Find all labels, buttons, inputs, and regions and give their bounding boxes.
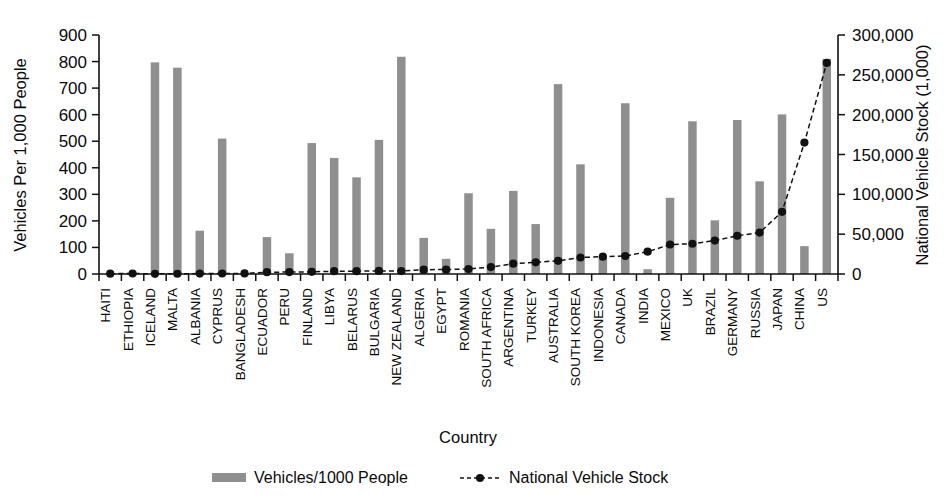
right-axis: 300,000250,000200,000150,000100,00050,00…: [838, 26, 931, 284]
bar: [464, 193, 473, 274]
line-marker: [733, 232, 741, 240]
bar: [554, 84, 563, 274]
line-marker: [599, 253, 607, 261]
category-label: RUSSIA: [748, 288, 763, 338]
line-marker: [442, 265, 450, 273]
category-label: BELARUS: [345, 288, 360, 351]
right-tick-label: 300,000: [852, 26, 913, 45]
line-marker: [756, 228, 764, 236]
left-tick-label: 700: [59, 79, 87, 98]
line-marker: [554, 257, 562, 265]
category-label: MALTA: [165, 288, 180, 331]
category-label: ROMANIA: [457, 288, 472, 351]
category-label: GERMANY: [725, 288, 740, 356]
bar: [173, 68, 182, 274]
right-tick-label: 100,000: [852, 185, 913, 204]
line-marker: [532, 258, 540, 266]
bar: [531, 224, 540, 274]
left-axis-title: Vehicles Per 1,000 People: [11, 58, 29, 252]
category-label: LIBYA: [322, 288, 337, 325]
bar: [196, 231, 205, 274]
right-tick-label: 250,000: [852, 66, 913, 85]
category-label: ALGERIA: [412, 288, 427, 347]
category-label: JAPAN: [770, 288, 785, 331]
right-tick-label: 50,000: [852, 225, 904, 244]
right-tick-label: 0: [852, 265, 861, 284]
bar: [778, 114, 787, 274]
right-tick-label: 200,000: [852, 106, 913, 125]
category-label: CHINA: [792, 288, 807, 330]
category-label: INDIA: [636, 288, 651, 324]
category-label: SOUTH AFRICA: [479, 288, 494, 388]
category-label: FINLAND: [300, 288, 315, 346]
category-label: UK: [680, 288, 695, 307]
bar: [800, 246, 809, 274]
bar: [823, 59, 832, 274]
bar: [711, 220, 720, 274]
bar-series-group: [106, 57, 831, 274]
combo-chart: 9008007006005004003002001000 Vehicles Pe…: [0, 0, 950, 500]
category-label: AUSTRALIA: [546, 288, 561, 363]
line-marker: [778, 208, 786, 216]
left-tick-label: 600: [59, 106, 87, 125]
right-axis-title: National Vehicle Stock (1,000): [913, 44, 931, 265]
category-label: CYPRUS: [210, 288, 225, 344]
line-marker: [263, 268, 271, 276]
category-label: MEXICO: [658, 288, 673, 341]
line-marker: [285, 268, 293, 276]
bar: [733, 120, 742, 274]
left-tick-label: 800: [59, 53, 87, 72]
bar: [688, 121, 697, 274]
line-marker: [823, 59, 831, 67]
bar: [621, 103, 630, 274]
right-axis-tick-labels: 300,000250,000200,000150,000100,00050,00…: [852, 26, 913, 284]
x-axis-title: Country: [439, 428, 498, 446]
bar: [397, 57, 406, 274]
legend-label-bars: Vehicles/1000 People: [254, 469, 408, 486]
left-axis-ticks: [92, 35, 99, 274]
line-marker: [487, 263, 495, 271]
category-label: HAITI: [98, 288, 113, 323]
line-marker: [464, 265, 472, 273]
category-axis: HAITIETHIOPIAICELANDMALTAALBANIACYPRUSBA…: [98, 274, 838, 446]
line-marker: [509, 260, 517, 268]
chart-container: 9008007006005004003002001000 Vehicles Pe…: [0, 0, 950, 500]
bar: [218, 139, 227, 274]
category-label: SOUTH KOREA: [568, 288, 583, 386]
left-tick-label: 0: [78, 265, 87, 284]
category-label: BRAZIL: [703, 288, 718, 336]
line-marker: [576, 253, 584, 261]
line-marker: [420, 266, 428, 274]
plot-area: [106, 57, 831, 278]
bar: [755, 181, 764, 274]
category-label: NEW ZEALAND: [389, 288, 404, 386]
line-marker: [711, 236, 719, 244]
chart-legend: Vehicles/1000 People National Vehicle St…: [212, 469, 669, 486]
category-label: ECUADOR: [255, 288, 270, 356]
category-label: BULGARIA: [367, 288, 382, 356]
right-axis-ticks: [838, 35, 845, 274]
legend-swatch-bar: [212, 473, 246, 482]
bar: [307, 143, 316, 274]
category-label: ICELAND: [143, 288, 158, 347]
bar: [352, 177, 361, 274]
line-marker: [800, 138, 808, 146]
x-axis-ticks: [99, 274, 838, 281]
legend-marker-circle: [476, 474, 484, 482]
category-label: CANADA: [613, 288, 628, 344]
left-tick-label: 500: [59, 132, 87, 151]
left-tick-label: 900: [59, 26, 87, 45]
bar: [330, 158, 339, 274]
left-axis: 9008007006005004003002001000 Vehicles Pe…: [11, 26, 99, 284]
category-label: BANGLADESH: [233, 288, 248, 380]
category-label: ARGENTINA: [501, 288, 516, 367]
line-marker: [621, 252, 629, 260]
left-tick-label: 400: [59, 159, 87, 178]
category-label: US: [815, 288, 830, 307]
category-label: PERU: [277, 288, 292, 326]
legend-label-line: National Vehicle Stock: [509, 469, 669, 486]
line-marker: [666, 240, 674, 248]
right-tick-label: 150,000: [852, 146, 913, 165]
line-marker: [688, 240, 696, 248]
category-label: ETHIOPIA: [121, 288, 136, 351]
